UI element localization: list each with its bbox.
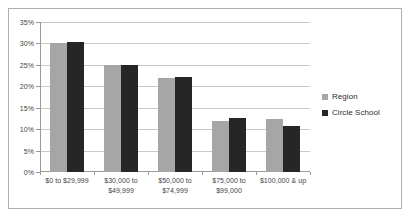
legend-label: Circle School: [332, 108, 380, 117]
bar-group: [256, 22, 310, 172]
y-axis-tick-label: 30%: [20, 40, 34, 47]
x-axis-category-label-line: $0 to $29,999: [40, 176, 94, 186]
bar-chart-figure: 35%30%25%20%15%10%5%0% $0 to $29,999$30,…: [0, 0, 411, 219]
x-axis-category-label-line: $100,000 & up: [256, 176, 310, 186]
x-axis-tick-mark: [202, 172, 203, 175]
bar-region: [212, 121, 229, 172]
x-axis-tick-mark: [256, 172, 257, 175]
x-axis-category-labels: $0 to $29,999$30,000 to$49,999$50,000 to…: [40, 176, 310, 195]
x-axis-category-label-line: $30,000 to: [94, 176, 148, 186]
y-axis-tick-label: 10%: [20, 126, 34, 133]
x-axis-tick-mark: [94, 172, 95, 175]
bar-circle-school: [121, 65, 138, 172]
y-axis-tick-label: 0%: [24, 169, 34, 176]
bar-series-group: [40, 22, 310, 172]
y-axis-tick-label: 5%: [24, 147, 34, 154]
y-axis-tick-label: 20%: [20, 83, 34, 90]
x-axis-tick-mark: [310, 172, 311, 175]
x-axis-category-label: $0 to $29,999: [40, 176, 94, 195]
x-axis-tick-mark: [40, 172, 41, 175]
legend-swatch-icon: [322, 94, 328, 100]
bar-circle-school: [67, 42, 84, 172]
x-axis-category-label-line: $49,999: [94, 186, 148, 196]
x-axis-category-label: $100,000 & up: [256, 176, 310, 195]
bar-group: [148, 22, 202, 172]
bar-region: [158, 78, 175, 172]
bar-circle-school: [229, 118, 246, 172]
y-axis-tick-label: 15%: [20, 104, 34, 111]
legend-item-school[interactable]: Circle School: [322, 108, 380, 117]
plot-area: 35%30%25%20%15%10%5%0%: [40, 22, 310, 172]
bar-region: [104, 65, 121, 172]
x-axis-category-label-line: $75,000 to: [202, 176, 256, 186]
bar-group: [40, 22, 94, 172]
y-axis-tick-label: 25%: [20, 61, 34, 68]
bar-region: [266, 119, 283, 172]
bar-group: [94, 22, 148, 172]
legend-label: Region: [332, 92, 358, 101]
x-axis-category-label: $50,000 to$74,999: [148, 176, 202, 195]
y-axis-tick-label: 35%: [20, 19, 34, 26]
x-axis-category-label-line: $74,999: [148, 186, 202, 196]
x-axis-category-label: $30,000 to$49,999: [94, 176, 148, 195]
x-axis-category-label-line: $99,000: [202, 186, 256, 196]
x-axis-tick-mark: [148, 172, 149, 175]
bar-circle-school: [175, 77, 192, 172]
legend-swatch-icon: [322, 110, 328, 116]
x-axis-category-label: $75,000 to$99,000: [202, 176, 256, 195]
legend-item-region[interactable]: Region: [322, 92, 380, 101]
bar-group: [202, 22, 256, 172]
bar-region: [50, 43, 67, 172]
x-axis-category-label-line: $50,000 to: [148, 176, 202, 186]
chart-legend: RegionCircle School: [322, 92, 380, 117]
bar-circle-school: [283, 126, 300, 172]
